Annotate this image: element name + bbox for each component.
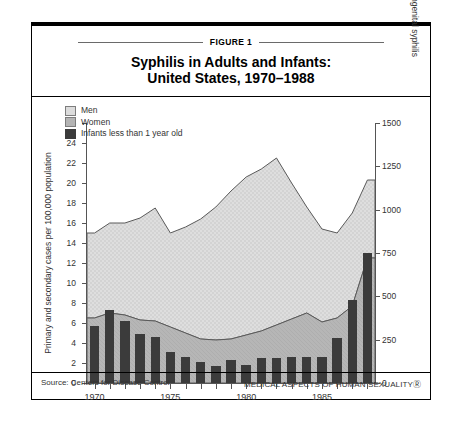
y-right-tick-250 xyxy=(376,340,380,341)
y-right-tick-1250 xyxy=(376,166,380,167)
y-left-tick-label-12: 12 xyxy=(67,259,76,267)
bar-infants-1972 xyxy=(120,321,129,383)
bar-infants-1974 xyxy=(151,337,160,383)
y-right-tick-label-750: 750 xyxy=(382,249,396,257)
legend-swatch-infants xyxy=(65,129,76,139)
bar-infants-1978 xyxy=(211,366,220,383)
y-right-tick-1000 xyxy=(376,210,380,211)
x-tick-label-1975: 1975 xyxy=(160,392,180,402)
y-left-tick-10 xyxy=(82,283,86,284)
y-left-tick-label-2: 2 xyxy=(71,359,76,367)
y-right-tick-750 xyxy=(376,253,380,254)
x-tick-label-1970: 1970 xyxy=(85,392,105,402)
publication-credit: MEDICAL ASPECTS OF HUMAN SEXUALITYⓇ xyxy=(244,378,421,389)
y-left-tick-14 xyxy=(82,243,86,244)
legend-item-women: Women xyxy=(65,117,183,129)
figure-rule-left xyxy=(78,42,203,43)
y-left-tick-label-18: 18 xyxy=(67,199,76,207)
y-right-tick-500 xyxy=(376,296,380,297)
legend-swatch-women xyxy=(65,117,76,127)
y-axis-right-title: No. of cases of congenital syphilis xyxy=(419,123,431,383)
y-right-tick-label-1500: 1500 xyxy=(382,119,401,127)
x-tick-1976 xyxy=(186,384,187,389)
y-left-tick-24 xyxy=(82,143,86,144)
bar-infants-1970 xyxy=(90,326,99,383)
y-left-tick-label-20: 20 xyxy=(67,179,76,187)
y-left-tick-2 xyxy=(82,363,86,364)
figure-label: FIGURE 1 xyxy=(210,37,252,47)
chart-title: Syphilis in Adults and Infants: United S… xyxy=(32,54,430,86)
figure-rule-right xyxy=(259,42,384,43)
y-right-tick-1500 xyxy=(376,123,380,124)
x-tick-1975 xyxy=(170,384,171,389)
x-tick-label-1985: 1985 xyxy=(312,392,332,402)
figure-label-row: FIGURE 1 xyxy=(32,36,430,48)
y-right-tick-label-500: 500 xyxy=(382,292,396,300)
legend-label-women: Women xyxy=(81,117,110,129)
bar-infants-1986 xyxy=(332,338,341,383)
plot-canvas: 0246810121416182022242602505007501000125… xyxy=(87,123,375,383)
footer-divider xyxy=(32,372,430,373)
bar-infants-1973 xyxy=(135,334,144,383)
y-left-tick-4 xyxy=(82,343,86,344)
y-right-tick-label-1000: 1000 xyxy=(382,206,401,214)
y-left-tick-label-16: 16 xyxy=(67,219,76,227)
legend-swatch-men xyxy=(65,106,76,116)
legend-item-infants: Infants less than 1 year old xyxy=(65,128,183,140)
y-left-tick-label-4: 4 xyxy=(71,339,76,347)
y-left-tick-label-14: 14 xyxy=(67,239,76,247)
bar-infants-1976 xyxy=(181,357,190,383)
y-left-tick-label-6: 6 xyxy=(71,319,76,327)
x-tick-1977 xyxy=(201,384,202,389)
plot-area: Primary and secondary cases per 100,000 … xyxy=(32,97,432,401)
figure-panel: FIGURE 1 Syphilis in Adults and Infants:… xyxy=(31,22,431,400)
y-left-tick-22 xyxy=(82,163,86,164)
y-left-tick-8 xyxy=(82,303,86,304)
y-left-tick-18 xyxy=(82,203,86,204)
chart-legend: Men Women Infants less than 1 year old xyxy=(65,105,183,140)
chart-title-line2: United States, 1970–1988 xyxy=(32,70,430,86)
y-left-tick-6 xyxy=(82,323,86,324)
x-tick-1978 xyxy=(216,384,217,389)
y-left-tick-label-22: 22 xyxy=(67,159,76,167)
x-tick-1979 xyxy=(231,384,232,389)
x-tick-label-1980: 1980 xyxy=(236,392,256,402)
y-right-tick-label-250: 250 xyxy=(382,336,396,344)
y-left-tick-12 xyxy=(82,263,86,264)
bar-infants-1988 xyxy=(363,253,372,383)
legend-item-men: Men xyxy=(65,105,183,117)
bar-infants-1987 xyxy=(348,300,357,383)
legend-label-men: Men xyxy=(81,105,98,117)
source-note: Source: Centers for Disease Control xyxy=(41,378,170,387)
y-left-tick-20 xyxy=(82,183,86,184)
legend-label-infants: Infants less than 1 year old xyxy=(81,128,183,140)
y-axis-left-title: Primary and secondary cases per 100,000 … xyxy=(32,123,44,383)
y-left-tick-label-8: 8 xyxy=(71,299,76,307)
chart-title-line1: Syphilis in Adults and Infants: xyxy=(32,54,430,70)
y-left-tick-label-24: 24 xyxy=(67,139,76,147)
y-left-tick-label-10: 10 xyxy=(67,279,76,287)
y-left-tick-16 xyxy=(82,223,86,224)
y-right-tick-label-1250: 1250 xyxy=(382,162,401,170)
